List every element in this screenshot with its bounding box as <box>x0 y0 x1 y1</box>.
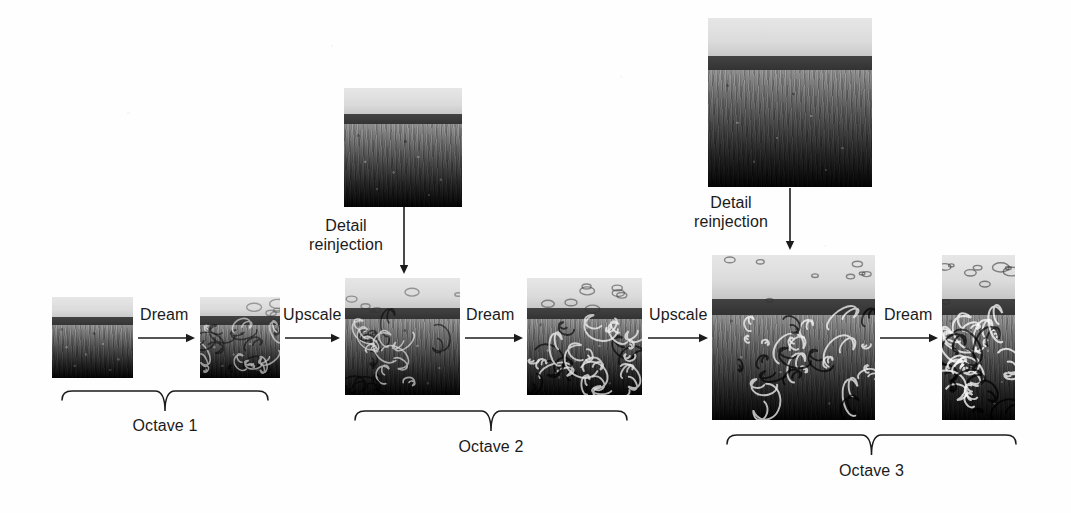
step-label-dream-2: Dream <box>466 305 515 324</box>
image-octave2-dreamed <box>527 278 642 395</box>
image-octave1-dreamed <box>200 297 280 378</box>
brace-octave-1 <box>62 388 270 414</box>
step-label-dream-3: Dream <box>884 305 933 324</box>
brace-octave-2 <box>355 408 629 434</box>
octave-label-1: Octave 1 <box>62 416 268 435</box>
arrow-right-upscale-1 <box>285 332 340 344</box>
octave-label-3: Octave 3 <box>727 461 1016 480</box>
detail-reinjection-label-2: Detail reinjection <box>688 193 774 231</box>
arrow-right-dream-1 <box>138 332 195 344</box>
detail-reinjection-label-1: Detail reinjection <box>303 216 389 254</box>
arrow-right-dream-3 <box>880 332 938 344</box>
arrow-down-detail-reinjection-1 <box>398 207 410 274</box>
brace-octave-3 <box>727 432 1018 458</box>
dream-swirls <box>345 278 460 395</box>
arrow-right-upscale-2 <box>648 332 708 344</box>
image-detail-patch-octave2 <box>344 88 462 207</box>
image-octave3-input <box>712 255 875 420</box>
image-octave2-input <box>345 278 460 395</box>
image-octave1-input <box>52 297 133 378</box>
image-detail-patch-octave3 <box>708 18 872 187</box>
dream-swirls <box>942 255 1015 420</box>
octave-label-2: Octave 2 <box>355 437 627 456</box>
image-octave3-dreamed <box>942 255 1015 420</box>
dream-swirls <box>527 278 642 395</box>
step-label-dream-1: Dream <box>140 305 189 324</box>
step-label-upscale-1: Upscale <box>283 305 342 324</box>
dream-swirls <box>712 255 875 420</box>
step-label-upscale-2: Upscale <box>649 305 708 324</box>
arrow-down-detail-reinjection-2 <box>784 188 796 250</box>
arrow-right-dream-2 <box>465 332 523 344</box>
dream-swirls <box>200 297 280 378</box>
deep-dream-pipeline-diagram: Dream Upscale Dream Upscale Dream Detail… <box>0 0 1071 513</box>
